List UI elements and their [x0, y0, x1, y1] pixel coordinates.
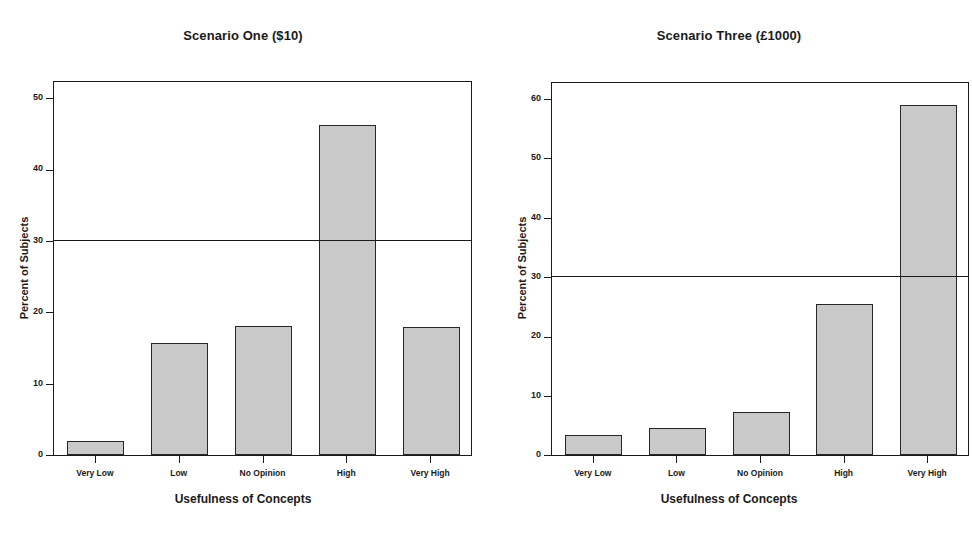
- x-tick-label: Very Low: [55, 468, 135, 478]
- x-tick-mark: [95, 456, 96, 463]
- y-tick-mark: [544, 99, 551, 100]
- bar: [67, 441, 124, 455]
- x-tick-mark: [927, 456, 928, 463]
- y-tick-label: 40: [531, 212, 541, 222]
- x-axis-label: Usefulness of Concepts: [0, 492, 486, 506]
- bar: [319, 125, 376, 455]
- y-tick-mark: [46, 98, 53, 99]
- x-tick-label: Very Low: [553, 468, 633, 478]
- bar: [900, 105, 957, 455]
- y-axis-label: Percent of Subjects: [18, 198, 30, 338]
- chart-title: Scenario Three (£1000): [486, 28, 972, 43]
- y-tick-label: 20: [531, 330, 541, 340]
- bar: [565, 435, 622, 455]
- bar: [816, 304, 873, 455]
- y-tick-label: 20: [33, 306, 43, 316]
- x-tick-label: High: [804, 468, 884, 478]
- y-tick-mark: [544, 396, 551, 397]
- x-tick-mark: [844, 456, 845, 463]
- bar: [235, 326, 292, 455]
- x-tick-mark: [676, 456, 677, 463]
- y-tick-mark: [544, 455, 551, 456]
- y-tick-mark: [46, 384, 53, 385]
- x-tick-mark: [593, 456, 594, 463]
- bar: [649, 428, 706, 455]
- y-tick-label: 60: [531, 93, 541, 103]
- y-tick-label: 10: [531, 390, 541, 400]
- chart-panel-scenario-one: Scenario One ($10) 01020304050 Percent o…: [0, 0, 486, 534]
- reference-line-30: [552, 276, 968, 277]
- chart-title: Scenario One ($10): [0, 28, 486, 43]
- plot-area: [551, 82, 969, 456]
- y-tick-label: 0: [38, 449, 43, 459]
- x-tick-mark: [346, 456, 347, 463]
- y-tick-label: 10: [33, 378, 43, 388]
- plot-area: [53, 81, 472, 456]
- bar: [733, 412, 790, 455]
- y-tick-mark: [544, 158, 551, 159]
- y-tick-mark: [544, 337, 551, 338]
- x-axis-label: Usefulness of Concepts: [486, 492, 972, 506]
- y-tick-mark: [544, 218, 551, 219]
- y-tick-label: 50: [33, 92, 43, 102]
- y-tick-label: 30: [531, 271, 541, 281]
- bar-series: [54, 82, 471, 455]
- y-tick-mark: [46, 312, 53, 313]
- x-tick-mark: [430, 456, 431, 463]
- y-tick-label: 30: [33, 235, 43, 245]
- x-tick-label: Low: [636, 468, 716, 478]
- figure-canvas: Scenario One ($10) 01020304050 Percent o…: [0, 0, 972, 534]
- x-tick-mark: [760, 456, 761, 463]
- y-tick-mark: [46, 241, 53, 242]
- x-tick-label: High: [306, 468, 386, 478]
- y-tick-mark: [544, 277, 551, 278]
- y-tick-label: 0: [536, 449, 541, 459]
- x-tick-label: Low: [139, 468, 219, 478]
- chart-panel-scenario-three: Scenario Three (£1000) 0102030405060 Per…: [486, 0, 972, 534]
- x-tick-label: Very High: [390, 468, 470, 478]
- x-tick-label: No Opinion: [720, 468, 800, 478]
- x-tick-mark: [179, 456, 180, 463]
- y-tick-mark: [46, 455, 53, 456]
- x-tick-label: Very High: [887, 468, 967, 478]
- reference-line-30: [54, 240, 471, 241]
- y-tick-label: 50: [531, 152, 541, 162]
- x-tick-label: No Opinion: [223, 468, 303, 478]
- y-tick-label: 40: [33, 163, 43, 173]
- bar: [151, 343, 208, 455]
- bar: [403, 327, 460, 455]
- bar-series: [552, 83, 968, 455]
- y-axis-label: Percent of Subjects: [516, 198, 528, 338]
- y-tick-mark: [46, 170, 53, 171]
- x-tick-mark: [263, 456, 264, 463]
